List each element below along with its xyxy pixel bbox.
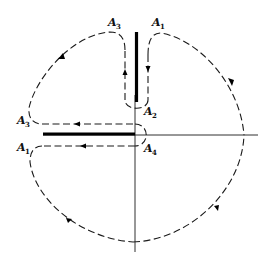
svg-text:3: 3	[25, 120, 30, 129]
contour-upper-right-arc	[148, 33, 244, 135]
svg-text:1: 1	[25, 147, 30, 156]
svg-text:1: 1	[160, 22, 165, 31]
arrow-vertical-left-up-icon	[123, 69, 128, 75]
arrow-horizontal-upper-left-icon	[74, 122, 80, 127]
svg-text:2: 2	[152, 111, 157, 120]
label-A1-left: A 1	[16, 141, 30, 156]
contour-lower-left-arc	[30, 146, 133, 242]
arrow-upper-right-arc-icon	[228, 78, 234, 86]
label-A4: A 4	[143, 142, 157, 157]
label-A3-left: A 3	[16, 114, 30, 129]
contour-upper-left-arc	[29, 32, 125, 124]
label-A2: A 2	[143, 105, 157, 120]
label-A3-top: A 3	[107, 16, 121, 31]
arrow-lower-right-arc-icon	[214, 205, 219, 211]
arrow-horizontal-lower-left-icon	[80, 144, 86, 149]
svg-text:3: 3	[116, 22, 121, 31]
contour-diagram: A 3 A 1 A 2 A 3 A 1 A 4	[0, 0, 267, 264]
arrow-vertical-right-down-icon	[146, 66, 151, 72]
svg-text:4: 4	[152, 148, 157, 157]
label-A1-top: A 1	[151, 16, 165, 31]
